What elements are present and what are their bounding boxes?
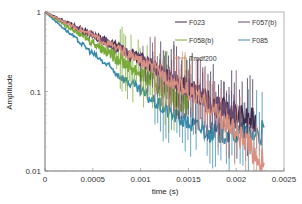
x-tick-label: 0.001: [131, 175, 152, 184]
legend-label: F057(b): [252, 19, 277, 27]
decay-chart: 0.010.11 00.00050.0010.00150.0020.0025 A…: [0, 0, 302, 204]
legend-label: Tmdf200: [189, 55, 217, 62]
legend-label: F085: [252, 37, 268, 44]
legend-label: F058(b): [189, 37, 214, 45]
x-tick-label: 0.0025: [272, 175, 297, 184]
y-tick-label: 1: [37, 8, 42, 17]
x-tick-label: 0.002: [226, 175, 247, 184]
y-tick-label: 0.01: [25, 167, 41, 176]
y-tick-label: 0.1: [30, 88, 42, 97]
x-tick-label: 0.0015: [176, 175, 201, 184]
y-axis-title: Amplitude: [5, 74, 14, 110]
x-tick-label: 0: [43, 175, 48, 184]
legend-label: F023: [189, 19, 205, 26]
x-tick-label: 0.0005: [81, 175, 106, 184]
x-axis-title: time (s): [152, 187, 179, 196]
y-axis: 0.010.11: [25, 8, 48, 176]
